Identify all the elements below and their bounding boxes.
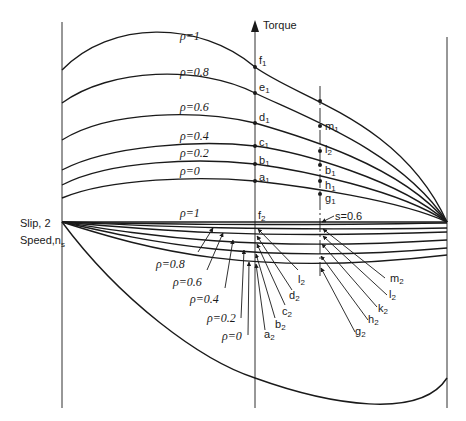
rho-label-upper-0.8: ρ=0.8 bbox=[179, 65, 209, 79]
point-d1: d1 bbox=[259, 111, 270, 125]
point-f1: f1 bbox=[259, 54, 267, 68]
rho-label-upper-0: ρ=0 bbox=[179, 164, 200, 178]
rho-label-lower-0.4: ρ=0.4 bbox=[189, 292, 219, 306]
point-a1: a1 bbox=[259, 171, 270, 185]
point-h2: h2 bbox=[368, 313, 379, 327]
upper-curves bbox=[62, 32, 447, 222]
rho-label-upper-0.6: ρ=0.6 bbox=[179, 100, 209, 114]
point-l2-center: l2 bbox=[298, 273, 305, 287]
slip-label: Slip, 2 bbox=[20, 217, 51, 229]
point-c1: c1 bbox=[259, 136, 270, 150]
torque-slip-diagram: Torque Slip, 2 Speed,ns s=0.6 ρ=1 ρ=0.8 … bbox=[0, 0, 466, 421]
rho-label-upper-0.4: ρ=0.4 bbox=[179, 129, 209, 143]
point-h1: h1 bbox=[325, 179, 336, 193]
rho-label-lower-0.2: ρ=0.2 bbox=[206, 311, 236, 325]
point-g2: g2 bbox=[355, 325, 366, 339]
point-k2: k2 bbox=[378, 302, 389, 316]
point-c2: c2 bbox=[282, 305, 293, 319]
rho-label-upper-0.2: ρ=0.2 bbox=[179, 146, 209, 160]
torque-axis-arrow-icon bbox=[251, 20, 259, 32]
point-e1: e1 bbox=[259, 81, 270, 95]
point-m1: m1 bbox=[325, 120, 339, 134]
point-l2-right: l2 bbox=[389, 288, 396, 302]
point-m2: m2 bbox=[390, 272, 404, 286]
point-l2-upper: l2 bbox=[325, 143, 332, 157]
rho-label-upper-1: ρ=1 bbox=[179, 29, 200, 43]
lower-curves bbox=[62, 222, 447, 404]
point-g1: g1 bbox=[325, 192, 336, 206]
rho-label-lower-1: ρ=1 bbox=[179, 206, 200, 220]
speed-label: Speed,ns bbox=[20, 234, 65, 249]
point-d2: d2 bbox=[289, 289, 300, 303]
torque-label: Torque bbox=[263, 19, 297, 31]
point-b1-right: b1 bbox=[325, 164, 336, 178]
rho-label-lower-0.6: ρ=0.6 bbox=[172, 275, 202, 289]
point-a2: a2 bbox=[264, 328, 275, 342]
point-b2: b2 bbox=[275, 318, 286, 332]
point-f2: f2 bbox=[258, 209, 266, 223]
slip-marker-label: s=0.6 bbox=[335, 210, 362, 222]
rho-label-lower-0.8: ρ=0.8 bbox=[155, 257, 185, 271]
rho-label-lower-0: ρ=0 bbox=[221, 329, 242, 343]
point-b1: b1 bbox=[259, 154, 270, 168]
